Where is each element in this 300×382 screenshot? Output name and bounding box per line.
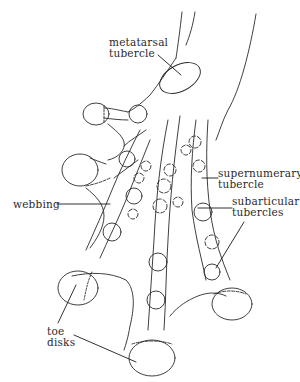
label-supernumerary-tubercle: supernumerary tubercle bbox=[218, 168, 300, 190]
frog-foot-diagram: metatarsal tubercle supernumerary tuberc… bbox=[0, 0, 300, 382]
label-subarticular-tubercles: subarticular tubercles bbox=[232, 196, 299, 218]
leg-outline bbox=[128, 12, 256, 140]
leader-subarticular-2 bbox=[216, 222, 244, 268]
leader-toe-disks-2 bbox=[74, 335, 136, 362]
webbing-outline bbox=[72, 188, 226, 350]
label-metatarsal-tubercle: metatarsal tubercle bbox=[109, 37, 168, 59]
label-toe-disks: toe disks bbox=[47, 326, 75, 348]
toe-1 bbox=[83, 103, 147, 160]
toe-4 bbox=[129, 116, 180, 376]
toe-3 bbox=[58, 130, 151, 305]
label-webbing: webbing bbox=[13, 199, 60, 210]
leader-lines bbox=[57, 55, 244, 362]
leader-toe-disks-1 bbox=[58, 285, 76, 323]
toe-5 bbox=[173, 120, 252, 320]
toe-2 bbox=[62, 130, 146, 186]
